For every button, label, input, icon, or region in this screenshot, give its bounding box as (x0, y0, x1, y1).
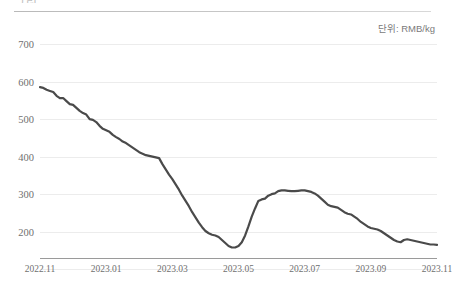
price-line (40, 87, 437, 247)
x-tick-2023-03: 2023.03 (157, 264, 188, 274)
unit-label: 단위: RMB/kg (378, 21, 435, 35)
y-tick-300: 300 (18, 189, 34, 200)
x-tick-2023-05: 2023.05 (223, 264, 254, 274)
x-tick-2023-11: 2023.11 (422, 264, 452, 274)
y-tick-200: 200 (18, 226, 34, 237)
x-tick-2023-07: 2023.07 (289, 264, 320, 274)
y-tick-400: 400 (18, 151, 34, 162)
x-tick-2022-11: 2022.11 (25, 264, 56, 274)
series-line-chart (40, 44, 437, 258)
x-tick-2023-01: 2023.01 (91, 264, 122, 274)
y-tick-600: 600 (18, 76, 34, 87)
y-tick-500: 500 (18, 114, 34, 125)
header-divider (14, 11, 431, 12)
y-tick-700: 700 (18, 39, 34, 50)
x-tick-2023-09: 2023.09 (355, 264, 386, 274)
x-axis-line (40, 258, 437, 259)
page-title-partial: 그림 (14, 0, 37, 3)
y-axis-tick-labels: 700600500400300200 (0, 44, 34, 258)
